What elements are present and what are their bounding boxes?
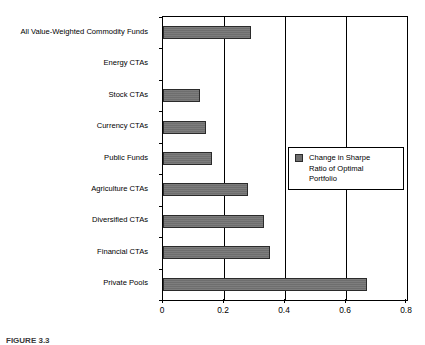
legend: Change in Sharpe Ratio of Optimal Portfo… [288,147,404,190]
bar-row [163,277,407,291]
y-axis-tick [159,143,163,144]
y-axis-tick [159,269,163,270]
y-axis-tick-label: Diversified CTAs [92,215,148,224]
bar [163,89,200,102]
y-axis-tick-label: Private Pools [103,278,148,287]
legend-label: Change in Sharpe Ratio of Optimal Portfo… [309,153,370,185]
y-axis-tick [159,17,163,18]
bar [163,121,206,134]
x-axis-tick-label: 0 [160,305,165,315]
bar-row [163,214,407,228]
y-axis-tick-label: All Value-Weighted Commodity Funds [20,27,148,36]
x-axis-tick [284,299,285,303]
y-axis-tick-label: Agriculture CTAs [91,184,148,193]
y-axis-tick [159,174,163,175]
x-axis-tick [405,299,406,303]
bar-row [163,120,407,134]
y-axis-tick [159,48,163,49]
y-axis-tick [159,111,163,112]
y-axis-tick-label: Financial CTAs [97,247,148,256]
bar-row [163,246,407,260]
y-axis-tick-label: Stock CTAs [108,90,148,99]
bar [163,246,270,259]
x-axis-tick [162,299,163,303]
y-axis-tick [159,80,163,81]
y-axis-label-group: All Value-Weighted Commodity FundsEnergy… [0,16,156,299]
figure-caption: FIGURE 3.3 [6,336,50,345]
y-axis-tick [159,206,163,207]
bar [163,278,367,291]
y-axis-tick [159,237,163,238]
figure-container: All Value-Weighted Commodity FundsEnergy… [0,0,425,345]
y-axis-tick-label: Currency CTAs [97,121,148,130]
y-axis-tick-label: Public Funds [104,153,148,162]
x-axis-tick-label: 0.8 [400,305,412,315]
x-axis-tick [223,299,224,303]
x-axis-tick-label: 0.6 [339,305,351,315]
bar [163,183,248,196]
y-axis-tick-label: Energy CTAs [103,58,148,67]
bar [163,215,264,228]
bar [163,152,212,165]
legend-swatch-icon [295,154,303,162]
bar [163,26,251,39]
bar-row [163,89,407,103]
x-axis-tick [345,299,346,303]
bar-row [163,26,407,40]
x-axis-tick-label: 0.2 [217,305,229,315]
x-axis: 00.20.40.60.8 [162,299,406,329]
x-axis-tick-label: 0.4 [278,305,290,315]
bar-row [163,57,407,71]
